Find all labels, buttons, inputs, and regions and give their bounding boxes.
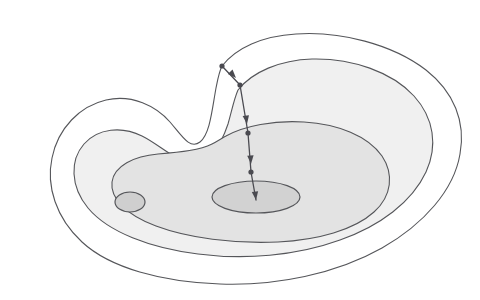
- contour-diagram-svg: [0, 0, 480, 300]
- iterate-1: [237, 82, 242, 87]
- iterate-0: [219, 63, 224, 68]
- iterate-2: [245, 130, 250, 135]
- iterate-3: [248, 169, 253, 174]
- contour-basin-local-minimum: [115, 192, 145, 212]
- figure-root: [0, 0, 480, 300]
